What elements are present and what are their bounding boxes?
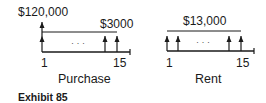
- arrow-up-icon: [239, 36, 244, 51]
- arrow-up-icon: [115, 36, 120, 52]
- rent-title: Rent: [195, 73, 221, 85]
- arrow-up-icon: [227, 36, 232, 51]
- purchase-initial-amount: $120,000: [18, 6, 68, 18]
- rent-end-period: 15: [236, 57, 249, 69]
- purchase-periodic-amount: $3000: [100, 18, 133, 30]
- arrow-up-icon: [40, 22, 45, 52]
- exhibit-caption: Exhibit 85: [18, 91, 68, 103]
- rent-start-period: 1: [166, 57, 173, 69]
- purchase-ellipsis: · · ·: [71, 37, 85, 49]
- arrow-up-icon: [165, 36, 170, 51]
- arrow-up-icon: [103, 36, 108, 52]
- purchase-end-period: 15: [113, 57, 126, 69]
- rent-periodic-amount: $13,000: [183, 15, 226, 27]
- purchase-title: Purchase: [58, 73, 111, 85]
- purchase-start-period: 1: [41, 57, 48, 69]
- arrow-up-icon: [176, 36, 181, 51]
- rent-ellipsis: · · ·: [196, 36, 210, 48]
